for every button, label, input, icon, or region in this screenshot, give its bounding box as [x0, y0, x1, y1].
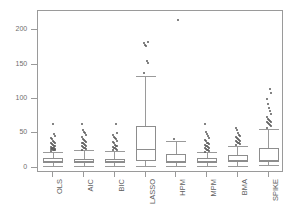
outlier-point — [146, 60, 148, 62]
outlier-point — [206, 133, 208, 135]
x-axis-tick-mark — [83, 172, 84, 177]
x-axis-tick-label: MPM — [210, 179, 218, 197]
whisker-cap-upper — [136, 76, 156, 77]
median-line-spike — [259, 160, 279, 161]
outlier-point — [206, 142, 208, 144]
x-axis-tick-mark — [175, 172, 176, 177]
outlier-point — [82, 138, 84, 140]
median-line-mpm — [197, 161, 217, 162]
outlier-point — [81, 149, 83, 151]
outlier-point — [147, 62, 149, 64]
whisker-cap-upper — [166, 141, 186, 142]
outlier-point — [81, 123, 83, 125]
outlier-point — [266, 121, 268, 123]
outlier-point — [144, 44, 146, 46]
outlier-point — [113, 136, 115, 138]
outlier-point — [82, 129, 84, 131]
whisker-cap-lower — [105, 166, 125, 167]
outlier-point — [235, 144, 237, 146]
whisker-cap-lower — [197, 166, 217, 167]
whisker-cap-upper — [74, 150, 94, 151]
x-axis-tick-label: OLS — [56, 179, 64, 194]
outlier-point — [269, 88, 271, 90]
whisker-cap-lower — [136, 166, 156, 167]
whisker-cap-lower — [166, 166, 186, 167]
outlier-point — [83, 131, 85, 133]
x-axis-tick-label: BMA — [241, 179, 249, 195]
whisker-cap-upper — [43, 152, 63, 153]
x-axis-tick-mark — [145, 172, 146, 177]
x-axis-tick-label-wrap: HPM — [171, 179, 181, 209]
plot-frame — [37, 10, 283, 172]
outlier-point — [143, 42, 145, 44]
box-bma — [228, 155, 248, 162]
outlier-point — [116, 132, 118, 134]
outlier-point — [236, 129, 238, 131]
x-axis-tick-label: HPM — [179, 179, 187, 196]
outlier-point — [173, 138, 175, 140]
outlier-point — [54, 135, 56, 137]
outlier-point — [267, 103, 269, 105]
outlier-point — [85, 134, 87, 136]
boxplot-figure: 050100150200 OLSAICBICLASSOHPMMPMBMASPIK… — [0, 0, 293, 209]
x-axis-tick-mark — [237, 172, 238, 177]
outlier-point — [112, 134, 114, 136]
x-axis-tick-label: AIC — [87, 179, 95, 192]
whisker-cap-lower — [74, 166, 94, 167]
x-axis-tick-label: LASSO — [149, 179, 157, 204]
y-axis-tick-label: 150 — [5, 60, 27, 68]
outlier-point — [208, 137, 210, 139]
x-axis-tick-label-wrap: LASSO — [141, 179, 151, 209]
whisker-upper — [145, 76, 146, 126]
outlier-point — [235, 127, 237, 129]
whisker-cap-upper — [197, 152, 217, 153]
outlier-point — [177, 19, 179, 21]
outlier-point — [52, 123, 54, 125]
x-axis-tick-mark — [114, 172, 115, 177]
whisker-cap-lower — [259, 165, 279, 166]
outlier-point — [267, 118, 269, 120]
outlier-point — [115, 123, 117, 125]
median-line-bma — [228, 160, 248, 161]
y-axis-tick-label: 100 — [5, 94, 27, 102]
outlier-point — [147, 41, 149, 43]
x-axis-tick-label: SPIKE — [272, 179, 280, 201]
x-axis-tick-mark — [52, 172, 53, 177]
whisker-upper — [176, 141, 177, 154]
x-axis-tick-label-wrap: BIC — [110, 179, 120, 209]
whisker-cap-lower — [228, 166, 248, 167]
outlier-point — [269, 110, 271, 112]
outlier-point — [143, 72, 145, 74]
x-axis-tick-label-wrap: BMA — [233, 179, 243, 209]
y-axis-tick-label: 0 — [5, 163, 27, 171]
whisker-cap-upper — [259, 129, 279, 130]
outlier-point — [112, 146, 114, 148]
y-axis-tick-label: 50 — [5, 128, 27, 136]
box-lasso — [136, 126, 156, 161]
outlier-point — [204, 123, 206, 125]
whisker-cap-lower — [43, 166, 63, 167]
outlier-point — [204, 151, 206, 153]
median-line-hpm — [166, 161, 186, 162]
median-line-lasso — [136, 149, 156, 150]
outlier-point — [266, 127, 268, 129]
median-line-ols — [43, 161, 63, 162]
x-axis-tick-label-wrap: AIC — [79, 179, 89, 209]
outlier-point — [266, 116, 268, 118]
x-axis-tick-label: BIC — [118, 179, 126, 192]
outlier-point — [270, 92, 272, 94]
x-axis-tick-mark — [206, 172, 207, 177]
whisker-upper — [84, 150, 85, 158]
x-axis-tick-label-wrap: SPIKE — [264, 179, 274, 209]
whisker-upper — [114, 151, 115, 159]
outlier-point — [268, 107, 270, 109]
plot-area — [38, 11, 282, 171]
outlier-point — [270, 113, 272, 115]
outlier-point — [266, 98, 268, 100]
outlier-point — [81, 142, 83, 144]
x-axis-tick-label-wrap: MPM — [202, 179, 212, 209]
whisker-cap-upper — [105, 151, 125, 152]
outlier-point — [205, 131, 207, 133]
x-axis-tick-mark — [268, 172, 269, 177]
y-axis-tick-label: 200 — [5, 25, 27, 33]
